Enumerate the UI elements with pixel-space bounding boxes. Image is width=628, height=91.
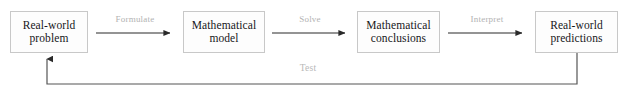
edge-label-solve: Solve	[272, 14, 348, 24]
node-mathematical-conclusions-line1: Mathematical	[366, 19, 430, 33]
node-mathematical-conclusions-line2: conclusions	[371, 32, 426, 46]
node-real-world-predictions-line2: predictions	[550, 32, 602, 46]
node-mathematical-model-line1: Mathematical	[192, 19, 256, 33]
modeling-process-diagram: Real-world problem Mathematical model Ma…	[0, 0, 628, 91]
node-real-world-problem-line2: problem	[29, 32, 68, 46]
node-mathematical-conclusions[interactable]: Mathematical conclusions	[357, 11, 440, 53]
edge-label-formulate: Formulate	[96, 14, 174, 24]
node-real-world-problem-line1: Real-world	[23, 19, 76, 33]
edge-label-test: Test	[288, 63, 328, 73]
node-real-world-predictions[interactable]: Real-world predictions	[535, 11, 618, 53]
node-real-world-problem[interactable]: Real-world problem	[10, 11, 88, 53]
node-real-world-predictions-line1: Real-world	[550, 19, 603, 33]
node-mathematical-model-line2: model	[209, 32, 238, 46]
edge-label-interpret: Interpret	[448, 14, 526, 24]
node-mathematical-model[interactable]: Mathematical model	[183, 11, 265, 53]
